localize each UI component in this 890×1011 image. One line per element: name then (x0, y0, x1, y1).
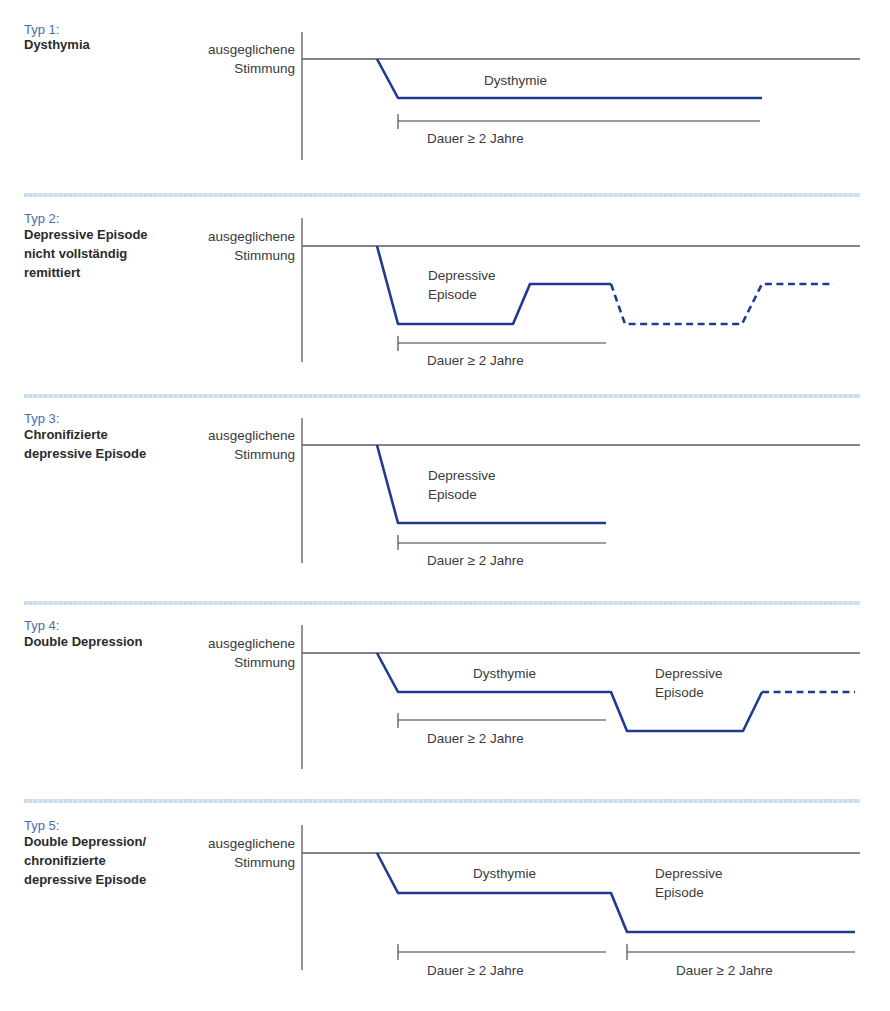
duration-brackets (398, 114, 855, 960)
axes (302, 32, 860, 970)
mood-lines (377, 59, 855, 932)
mood-course-diagram (0, 0, 890, 1011)
